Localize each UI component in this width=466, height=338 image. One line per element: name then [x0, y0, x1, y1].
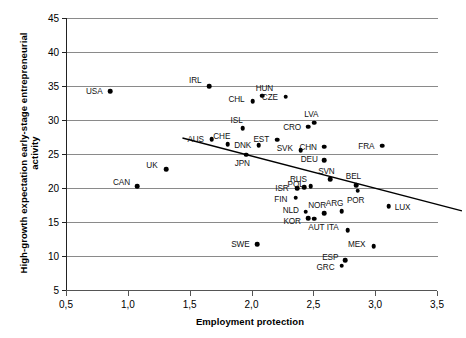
data-point-label: POR	[347, 195, 364, 204]
y-axis-tick-label: 25	[48, 149, 59, 160]
x-axis-tick	[252, 291, 253, 296]
data-point-marker	[240, 126, 245, 131]
data-point-label: DEU	[301, 155, 318, 164]
gridline	[67, 18, 438, 19]
y-axis-tick-label: 30	[48, 115, 59, 126]
data-point-label: KOR	[283, 216, 300, 225]
data-point-marker	[380, 144, 385, 149]
x-axis-title: Employment protection	[60, 316, 440, 327]
data-point-label: JPN	[235, 158, 250, 167]
gridline	[67, 222, 438, 223]
y-axis-tick-label: 5	[53, 285, 59, 296]
gridline	[67, 154, 438, 155]
data-point-marker	[275, 137, 280, 142]
x-axis-tick	[437, 291, 438, 296]
data-point-marker	[207, 84, 212, 89]
x-axis-tick	[190, 291, 191, 296]
x-axis-tick-label: 3,0	[368, 299, 382, 310]
y-axis-title-line2: activity	[29, 136, 40, 170]
gridline	[67, 86, 438, 87]
data-point-marker	[386, 204, 391, 209]
data-point-label: DNK	[234, 141, 251, 150]
data-point-marker	[284, 95, 289, 100]
data-point-marker	[322, 144, 327, 149]
data-point-label: AUT	[308, 222, 324, 231]
y-axis-tick	[62, 120, 67, 121]
x-axis-tick-label: 1,0	[121, 299, 135, 310]
x-axis-tick-label: 3,5	[430, 299, 444, 310]
data-point-label: BEL	[346, 172, 361, 181]
data-point-label: USA	[86, 87, 103, 96]
data-point-marker	[293, 195, 298, 200]
data-point-label: SWE	[231, 240, 249, 249]
data-point-marker	[135, 184, 140, 189]
y-axis-tick-label: 10	[48, 251, 59, 262]
data-point-label: UK	[146, 160, 157, 169]
data-point-label: NLD	[283, 205, 299, 214]
data-point-marker	[328, 177, 333, 182]
data-point-label: LUX	[395, 203, 411, 212]
data-point-label: SVN	[318, 167, 335, 176]
x-axis-tick-label: 2,0	[245, 299, 259, 310]
y-axis-tick	[62, 86, 67, 87]
data-point-marker	[355, 188, 360, 193]
y-axis-tick-label: 40	[48, 47, 59, 58]
y-axis-tick	[62, 188, 67, 189]
data-point-label: FRA	[358, 141, 374, 150]
y-axis-tick-label: 15	[48, 217, 59, 228]
data-point-marker	[312, 120, 317, 125]
data-point-label: CRO	[283, 122, 301, 131]
data-point-label: ITA	[327, 223, 339, 232]
x-axis-tick-label: 1,5	[183, 299, 197, 310]
data-point-marker	[345, 228, 350, 233]
y-axis-tick-label: 35	[48, 81, 59, 92]
data-point-label: CHN	[299, 142, 316, 151]
y-axis-title: High-growth expectation early-stage entr…	[18, 18, 40, 288]
y-axis-tick	[62, 154, 67, 155]
gridline	[67, 188, 438, 189]
data-point-label: FIN	[274, 194, 287, 203]
data-point-label: CHL	[228, 94, 244, 103]
x-axis: 0,51,01,52,02,53,03,5	[66, 290, 437, 291]
y-axis-tick	[62, 256, 67, 257]
data-point-marker	[371, 244, 376, 249]
data-point-marker	[308, 184, 313, 189]
data-point-label: ARG	[326, 199, 343, 208]
data-point-marker	[339, 263, 344, 268]
data-point-label: ISL	[231, 116, 243, 125]
data-point-label: EST	[253, 134, 269, 143]
data-point-label: HUN	[256, 83, 273, 92]
y-axis-tick	[62, 18, 67, 19]
y-axis-tick-label: 45	[48, 13, 59, 24]
data-point-marker	[250, 99, 255, 104]
data-point-marker	[343, 258, 348, 263]
data-point-label: CHE	[213, 132, 230, 141]
x-axis-tick-label: 2,5	[306, 299, 320, 310]
data-point-marker	[354, 183, 359, 188]
gridline	[67, 120, 438, 121]
data-point-marker	[322, 158, 327, 163]
data-point-marker	[256, 143, 261, 148]
data-point-marker	[339, 209, 344, 214]
x-axis-tick	[375, 291, 376, 296]
data-point-label: AUS	[187, 135, 204, 144]
data-point-marker	[108, 89, 113, 94]
y-axis-tick	[62, 222, 67, 223]
data-point-label: NOR	[308, 201, 326, 210]
data-point-label: POL	[288, 179, 304, 188]
data-point-marker	[306, 125, 311, 130]
data-point-marker	[244, 152, 249, 157]
data-point-marker	[164, 167, 169, 172]
data-point-label: MEX	[348, 240, 365, 249]
gridline	[67, 52, 438, 53]
x-axis-tick	[66, 291, 67, 296]
data-point-label: LVA	[304, 109, 318, 118]
data-point-marker	[255, 242, 260, 247]
x-axis-tick	[313, 291, 314, 296]
trendline	[133, 36, 466, 308]
data-point-label: SVK	[277, 143, 293, 152]
y-axis-title-line1: High-growth expectation early-stage entr…	[18, 32, 29, 273]
data-point-label: CZE	[262, 92, 278, 101]
y-axis-tick	[62, 52, 67, 53]
